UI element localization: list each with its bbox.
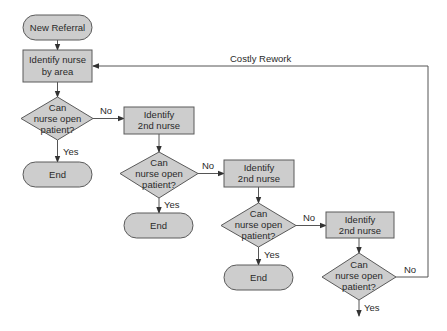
node-decision3: Can nurse open patient? bbox=[221, 203, 296, 247]
node-text: Can bbox=[150, 157, 167, 168]
edge-label-yes: Yes bbox=[364, 302, 380, 313]
node-text: 2nd nurse bbox=[339, 225, 381, 236]
flowchart: New Referral Identify nurse by area Can … bbox=[0, 0, 447, 331]
node-end2: End bbox=[124, 213, 193, 238]
rework-label: Costly Rework bbox=[230, 53, 291, 64]
node-text: nurse open bbox=[34, 113, 82, 124]
node-identify4: Identify 2nd nurse bbox=[326, 212, 394, 238]
node-text: 2nd nurse bbox=[238, 173, 280, 184]
node-decision4: Can nurse open patient? bbox=[322, 253, 396, 300]
node-text: 2nd nurse bbox=[138, 120, 180, 131]
node-text: Can bbox=[49, 102, 66, 113]
edge-label-no: No bbox=[202, 160, 214, 171]
edge-label-yes: Yes bbox=[164, 199, 180, 210]
node-text: Identify bbox=[144, 109, 175, 120]
edge-label-yes: Yes bbox=[264, 249, 280, 260]
node-text: Identify bbox=[244, 162, 275, 173]
node-text: patient? bbox=[142, 179, 176, 190]
node-text: nurse open bbox=[235, 219, 283, 230]
node-text: nurse open bbox=[335, 270, 383, 281]
node-text: patient? bbox=[41, 124, 75, 135]
node-text: End bbox=[49, 169, 66, 180]
node-text: nurse open bbox=[135, 168, 183, 179]
edge-label-no: No bbox=[100, 105, 112, 116]
node-text: End bbox=[250, 272, 267, 283]
node-text: Can bbox=[350, 259, 367, 270]
edge-label-yes: Yes bbox=[63, 146, 79, 157]
node-decision1: Can nurse open patient? bbox=[21, 97, 93, 140]
node-end1: End bbox=[23, 162, 92, 187]
node-text: patient? bbox=[242, 230, 276, 241]
node-identify1: Identify nurse by area bbox=[23, 50, 92, 82]
node-start: New Referral bbox=[23, 15, 92, 40]
node-end3: End bbox=[224, 265, 293, 290]
node-identify3: Identify 2nd nurse bbox=[224, 160, 294, 187]
node-text: New Referral bbox=[30, 22, 85, 33]
node-text: Identify nurse bbox=[29, 54, 86, 65]
node-text: patient? bbox=[342, 281, 376, 292]
node-text: Can bbox=[250, 208, 267, 219]
edge-label-no: No bbox=[303, 212, 315, 223]
node-text: by area bbox=[42, 66, 74, 77]
edge-label-no: No bbox=[404, 264, 416, 275]
node-text: End bbox=[150, 220, 167, 231]
node-identify2: Identify 2nd nurse bbox=[124, 107, 194, 134]
node-text: Identify bbox=[345, 214, 376, 225]
node-decision2: Can nurse open patient? bbox=[120, 152, 198, 198]
